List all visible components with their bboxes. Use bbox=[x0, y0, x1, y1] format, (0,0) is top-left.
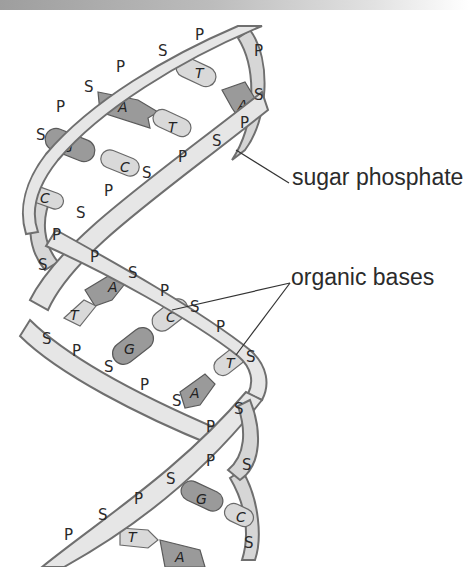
svg-text:S: S bbox=[244, 534, 254, 552]
svg-text:S: S bbox=[166, 470, 176, 488]
organic-bases-label: organic bases bbox=[291, 264, 434, 291]
svg-text:P: P bbox=[240, 114, 249, 132]
base-label: T bbox=[128, 529, 138, 545]
base-label: A bbox=[189, 385, 200, 401]
base-label: G bbox=[124, 341, 135, 357]
svg-text:S: S bbox=[254, 86, 264, 104]
base-label: A bbox=[174, 549, 185, 565]
base-pair-9: T A bbox=[120, 528, 205, 567]
base-label: C bbox=[120, 159, 130, 175]
svg-text:P: P bbox=[90, 248, 99, 266]
svg-text:S: S bbox=[76, 204, 86, 222]
base-label: C bbox=[40, 190, 50, 206]
svg-text:S: S bbox=[128, 264, 138, 282]
sugar-phosphate-label: sugar phosphate bbox=[292, 164, 463, 191]
svg-text:S: S bbox=[172, 392, 182, 410]
svg-text:P: P bbox=[195, 26, 204, 44]
svg-text:P: P bbox=[56, 98, 65, 116]
svg-text:S: S bbox=[84, 78, 94, 96]
svg-text:P: P bbox=[254, 42, 263, 60]
base-label: T bbox=[70, 307, 80, 323]
svg-text:P: P bbox=[134, 490, 143, 508]
svg-text:S: S bbox=[142, 164, 152, 182]
svg-text:S: S bbox=[98, 506, 108, 524]
base-label: C bbox=[236, 509, 246, 525]
svg-text:S: S bbox=[234, 400, 244, 418]
svg-text:P: P bbox=[216, 318, 225, 336]
svg-text:P: P bbox=[178, 148, 187, 166]
svg-text:P: P bbox=[72, 342, 81, 360]
base-label: T bbox=[168, 119, 178, 135]
svg-text:P: P bbox=[140, 376, 149, 394]
sugar-phosphate-leader bbox=[236, 150, 289, 183]
svg-text:P: P bbox=[52, 226, 61, 244]
svg-text:P: P bbox=[206, 452, 215, 470]
svg-text:S: S bbox=[104, 358, 114, 376]
svg-text:S: S bbox=[36, 126, 46, 144]
base-label: G bbox=[196, 491, 207, 507]
svg-text:S: S bbox=[246, 348, 256, 366]
svg-text:S: S bbox=[42, 330, 52, 348]
svg-text:S: S bbox=[158, 42, 168, 60]
base-label: T bbox=[226, 355, 236, 371]
base-label: T bbox=[195, 65, 205, 81]
svg-text:P: P bbox=[206, 418, 215, 436]
svg-text:P: P bbox=[64, 526, 73, 544]
svg-text:S: S bbox=[242, 456, 252, 474]
svg-text:P: P bbox=[160, 282, 169, 300]
svg-text:S: S bbox=[212, 132, 222, 150]
svg-text:P: P bbox=[104, 182, 113, 200]
svg-text:S: S bbox=[38, 256, 48, 274]
svg-text:S: S bbox=[190, 298, 200, 316]
svg-text:P: P bbox=[116, 58, 125, 76]
